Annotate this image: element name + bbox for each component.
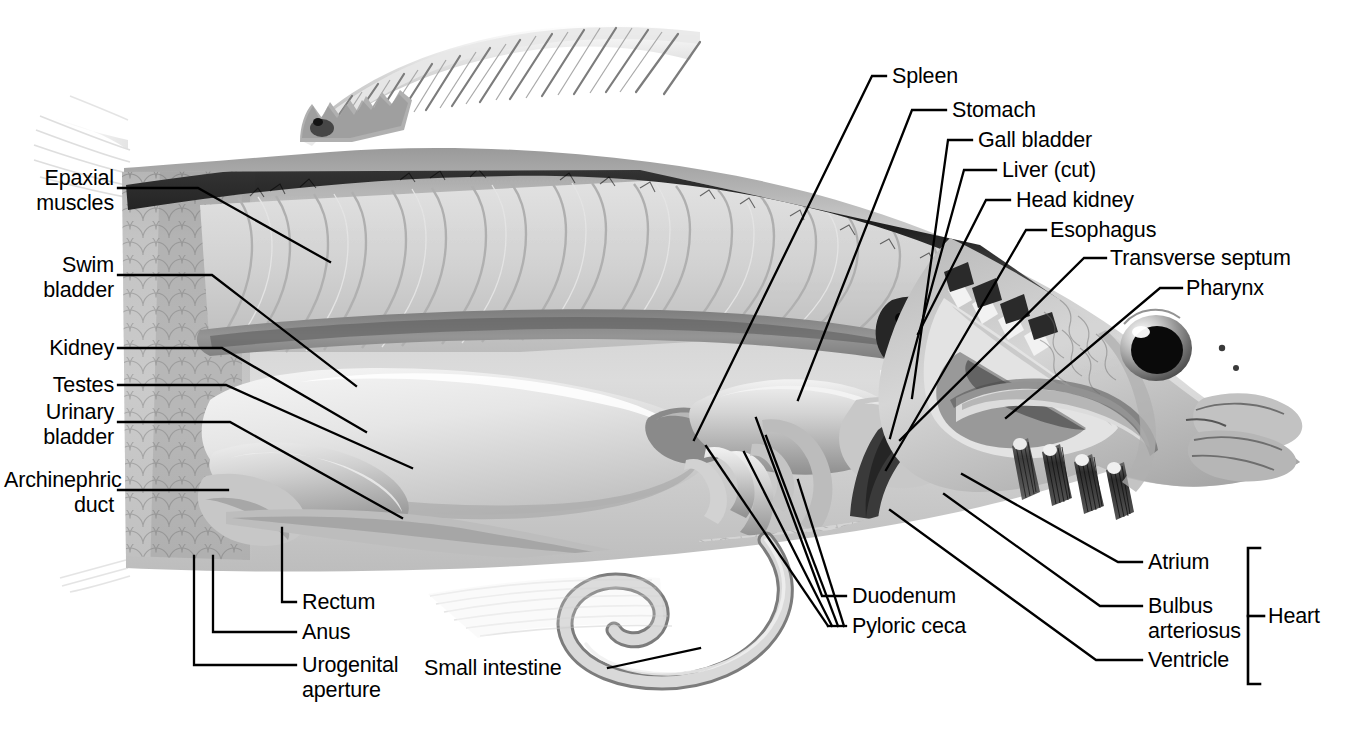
label-small-intestine: Small intestine <box>424 656 562 681</box>
leader-urogenital-aperture <box>194 556 296 665</box>
label-stomach: Stomach <box>952 98 1036 123</box>
label-esophagus: Esophagus <box>1050 218 1156 243</box>
label-epaxial-muscles: Epaxial muscles <box>10 166 114 216</box>
leader-small-intestine <box>608 648 700 668</box>
leader-bulbus-arteriosus <box>944 494 1142 606</box>
label-anus: Anus <box>302 620 350 645</box>
label-urogenital-aperture: Urogenital aperture <box>302 653 399 703</box>
pelvic-fin <box>428 577 672 638</box>
label-archinephric-duct: Archinephric duct <box>4 468 114 518</box>
label-heart: Heart <box>1268 604 1320 629</box>
fish-anatomy-illustration <box>0 0 1345 730</box>
nostril <box>1219 345 1225 351</box>
label-pharynx: Pharynx <box>1186 276 1264 301</box>
label-ventricle: Ventricle <box>1148 648 1229 673</box>
eye-highlight <box>1132 326 1150 338</box>
label-bulbus-arteriosus: Bulbus arteriosus <box>1148 594 1241 644</box>
label-atrium: Atrium <box>1148 550 1209 575</box>
label-urinary-bladder: Urinary bladder <box>10 400 114 450</box>
figure-canvas: Epaxial muscles Swim bladder Kidney Test… <box>0 0 1345 730</box>
label-duodenum: Duodenum <box>852 584 956 609</box>
label-spleen: Spleen <box>892 64 958 89</box>
anal-fin-posterior <box>60 560 130 592</box>
fish-body <box>34 25 1302 682</box>
label-kidney: Kidney <box>10 336 114 361</box>
label-head-kidney: Head kidney <box>1016 188 1134 213</box>
dorsal-fin <box>300 25 700 146</box>
label-rectum: Rectum <box>302 590 375 615</box>
label-swim-bladder: Swim bladder <box>10 253 114 303</box>
label-gall-bladder: Gall bladder <box>978 128 1092 153</box>
label-liver-cut: Liver (cut) <box>1002 158 1096 183</box>
label-pyloric-ceca: Pyloric ceca <box>852 614 966 639</box>
label-testes: Testes <box>10 373 114 398</box>
label-transverse-septum: Transverse septum <box>1110 246 1291 271</box>
eye <box>1120 310 1192 381</box>
